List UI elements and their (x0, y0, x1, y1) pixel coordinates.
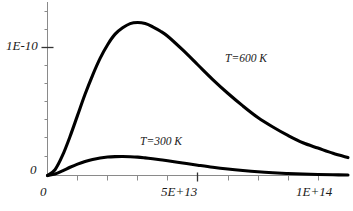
blackbody-spectrum-chart: 1E-10 0 0 5E+13 1E+14 T=600 K T=300 K (0, 0, 353, 211)
series-annotation-t600k: T=600 K (225, 52, 267, 64)
x-axis-label-5e13: 5E+13 (161, 184, 197, 200)
y-axis-label-1e-10: 1E-10 (6, 38, 38, 54)
series-annotation-t300k: T=300 K (140, 135, 182, 147)
plot-area (0, 0, 353, 211)
y-axis-label-zero: 0 (30, 162, 37, 178)
curve-t600k (48, 23, 349, 176)
x-axis-label-zero: 0 (40, 184, 47, 200)
x-axis-label-1e14: 1E+14 (296, 184, 332, 200)
